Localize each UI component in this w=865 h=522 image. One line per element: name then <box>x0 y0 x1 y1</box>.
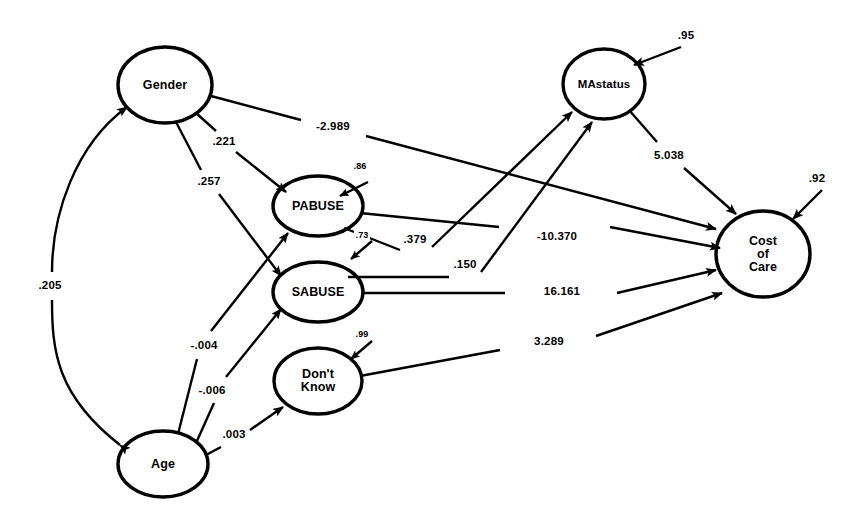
path-label-age-sabuse: -.006 <box>197 384 227 396</box>
edge-pabuse-mastatus-seg1 <box>344 228 400 250</box>
edge-mastatus-cost <box>684 168 736 214</box>
edge-disturbance-cost <box>793 190 822 219</box>
edge-gender-pabuse <box>236 152 286 192</box>
path-label-gender-cost: -2.989 <box>315 120 352 132</box>
edge-gender-sabuse-seg1 <box>176 122 201 170</box>
edge-disturbance-sabuse <box>351 241 372 259</box>
edge-age-sabuse-seg1 <box>196 403 214 443</box>
edge-sabuse-cost <box>617 270 716 293</box>
path-label-gender-pabuse: .221 <box>211 135 237 147</box>
node-pabuse <box>273 176 363 236</box>
edge-correlation-age-side <box>52 300 120 445</box>
diagram-edges <box>0 0 865 522</box>
disturbance-label-cost: .92 <box>807 172 827 184</box>
edge-pabuse-cost-seg1 <box>360 213 499 227</box>
edge-age-dontknow-seg1 <box>206 447 221 455</box>
edge-pabuse-cost <box>610 227 720 248</box>
edge-mastatus-cost-seg1 <box>629 110 657 142</box>
node-mastatus <box>563 49 645 119</box>
edge-sabuse-mastatus <box>481 122 592 272</box>
node-cost <box>716 211 810 297</box>
edge-age-dontknow <box>250 407 283 430</box>
edge-gender-pabuse-seg1 <box>196 113 216 131</box>
path-label-sabuse-mastatus: .150 <box>452 258 478 270</box>
edge-correlation-gender-side <box>52 107 127 272</box>
correlation-label-gender-age: .205 <box>37 279 63 291</box>
edge-disturbance-mastatus <box>634 47 681 65</box>
disturbance-label-mastatus: .95 <box>676 29 696 41</box>
edge-disturbance-dontknow <box>351 341 372 359</box>
disturbance-label-dontknow: .99 <box>354 329 370 339</box>
node-age <box>118 431 208 497</box>
edge-gender-cost-seg1 <box>211 96 301 120</box>
node-sabuse <box>273 262 363 322</box>
path-label-gender-sabuse: .257 <box>196 175 222 187</box>
edge-age-pabuse-seg1 <box>178 359 197 434</box>
path-label-dontknow-cost: 3.289 <box>533 335 566 347</box>
edge-pabuse-mastatus <box>432 112 572 247</box>
node-dontknow <box>274 348 362 414</box>
path-label-pabuse-cost: -10.370 <box>535 230 578 242</box>
disturbance-label-sabuse: .73 <box>354 230 370 240</box>
path-label-age-pabuse: -.004 <box>189 339 219 351</box>
edge-dontknow-cost-seg1 <box>360 350 500 376</box>
path-diagram: Gender PABUSE SABUSE Don't Know Age MAst… <box>0 0 865 522</box>
path-label-age-dontknow: .003 <box>221 428 247 440</box>
path-label-mastatus-cost: 5.038 <box>653 149 686 161</box>
path-label-pabuse-mastatus: .379 <box>402 233 428 245</box>
node-gender <box>118 47 212 123</box>
disturbance-label-pabuse: .86 <box>352 161 368 171</box>
path-label-sabuse-cost: 16.161 <box>542 285 581 297</box>
edge-age-sabuse <box>226 309 281 377</box>
edge-dontknow-cost <box>596 293 722 336</box>
